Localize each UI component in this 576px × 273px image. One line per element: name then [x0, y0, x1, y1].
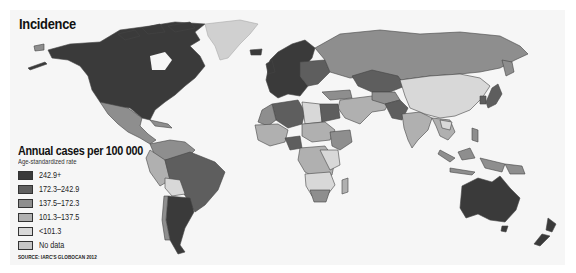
legend-swatch: [18, 199, 33, 208]
legend-swatch: [18, 185, 33, 194]
legend-item: 137.5–172.3: [18, 196, 158, 210]
legend-item: No data: [18, 238, 158, 252]
legend-label: 101.3–137.5: [39, 212, 79, 222]
source-note: SOURCE: IARC'S GLOBOCAN 2012: [18, 254, 137, 260]
legend-swatch: [18, 241, 33, 250]
legend-item: 242.9+: [18, 168, 158, 182]
map-title: Incidence: [19, 16, 76, 32]
legend-label: 242.9+: [39, 170, 61, 180]
legend-item: 101.3–137.5: [18, 210, 158, 224]
region-argentina: [166, 196, 194, 254]
legend-label: 137.5–172.3: [39, 198, 79, 208]
region-india: [402, 112, 432, 148]
region-australia: [460, 176, 520, 222]
legend-label: <101.3: [39, 226, 61, 236]
region-greenland: [205, 20, 258, 60]
legend-subtitle: Age-standardized rate: [18, 158, 137, 165]
legend-swatch: [18, 171, 33, 180]
legend-title: Annual cases per 100 000: [18, 144, 144, 158]
legend-label: 172.3–242.9: [39, 184, 79, 194]
region-china: [400, 74, 490, 118]
region-russia: [315, 30, 528, 80]
region-nigeria: [285, 136, 302, 150]
legend: Annual cases per 100 000 Age-standardize…: [18, 144, 158, 260]
region-new-zealand: [534, 218, 556, 246]
legend-swatch: [18, 213, 33, 222]
legend-item: <101.3: [18, 224, 158, 238]
legend-item: 172.3–242.9: [18, 182, 158, 196]
legend-label: No data: [39, 240, 64, 250]
legend-swatch: [18, 227, 33, 236]
region-egypt: [320, 104, 340, 122]
